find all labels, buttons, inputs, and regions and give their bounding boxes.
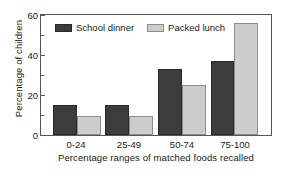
- y-tick-label-20: 20: [27, 90, 38, 101]
- x-tick-label-1: 25-49: [117, 139, 141, 150]
- bar-school-dinner-1[interactable]: [105, 105, 129, 135]
- y-tick-label-60: 60: [27, 10, 38, 21]
- chart-legend: School dinner Packed lunch: [55, 22, 225, 33]
- bar-group-1: [105, 15, 153, 135]
- legend-label-school-dinner: School dinner: [76, 22, 134, 33]
- legend-swatch-packed-lunch: [147, 24, 164, 32]
- bar-packed-lunch-1[interactable]: [129, 116, 153, 135]
- legend-label-packed-lunch: Packed lunch: [168, 22, 225, 33]
- bar-group-2: [158, 15, 206, 135]
- x-axis-title: Percentage ranges of matched foods recal…: [40, 152, 272, 163]
- y-tick-label-40: 40: [27, 49, 38, 60]
- plot-inner: 0 20 40 60: [41, 15, 271, 135]
- bar-school-dinner-2[interactable]: [158, 69, 182, 135]
- bar-group-0: [53, 15, 101, 135]
- bar-school-dinner-3[interactable]: [211, 61, 235, 135]
- bar-packed-lunch-0[interactable]: [77, 116, 101, 135]
- bar-school-dinner-0[interactable]: [53, 105, 77, 135]
- x-tick-label-3: 75-100: [220, 139, 250, 150]
- legend-entry-packed-lunch[interactable]: Packed lunch: [147, 22, 225, 33]
- bar-group-3: [211, 15, 259, 135]
- x-tick-label-0: 0-24: [66, 139, 85, 150]
- legend-swatch-school-dinner: [55, 24, 72, 32]
- legend-entry-school-dinner[interactable]: School dinner: [55, 22, 134, 33]
- y-tick-label-0: 0: [33, 130, 38, 141]
- y-axis-title: Percentage of children: [13, 4, 24, 134]
- bar-chart-figure: Percentage of children 0 20 40 60: [0, 0, 286, 173]
- x-tick-label-2: 50-74: [170, 139, 194, 150]
- bar-packed-lunch-3[interactable]: [234, 23, 258, 135]
- bar-packed-lunch-2[interactable]: [182, 85, 206, 135]
